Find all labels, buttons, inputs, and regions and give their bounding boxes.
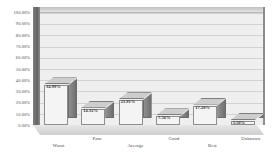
x-axis-category-label: Worst (33, 143, 84, 149)
x-axis-category-labels: WorstPoorAverageGoodBestUnknown (0, 0, 273, 156)
x-axis-category-label: Unknown (225, 136, 273, 142)
chart-container: 100.00% 90.00% 80.00% 70.00% 60.00% 50.0… (0, 0, 273, 156)
x-axis-category-label: Good (148, 136, 199, 142)
x-axis-category-label: Average (110, 143, 161, 149)
x-axis-category-label: Poor (71, 136, 122, 142)
x-axis-category-label: Best (187, 143, 238, 149)
